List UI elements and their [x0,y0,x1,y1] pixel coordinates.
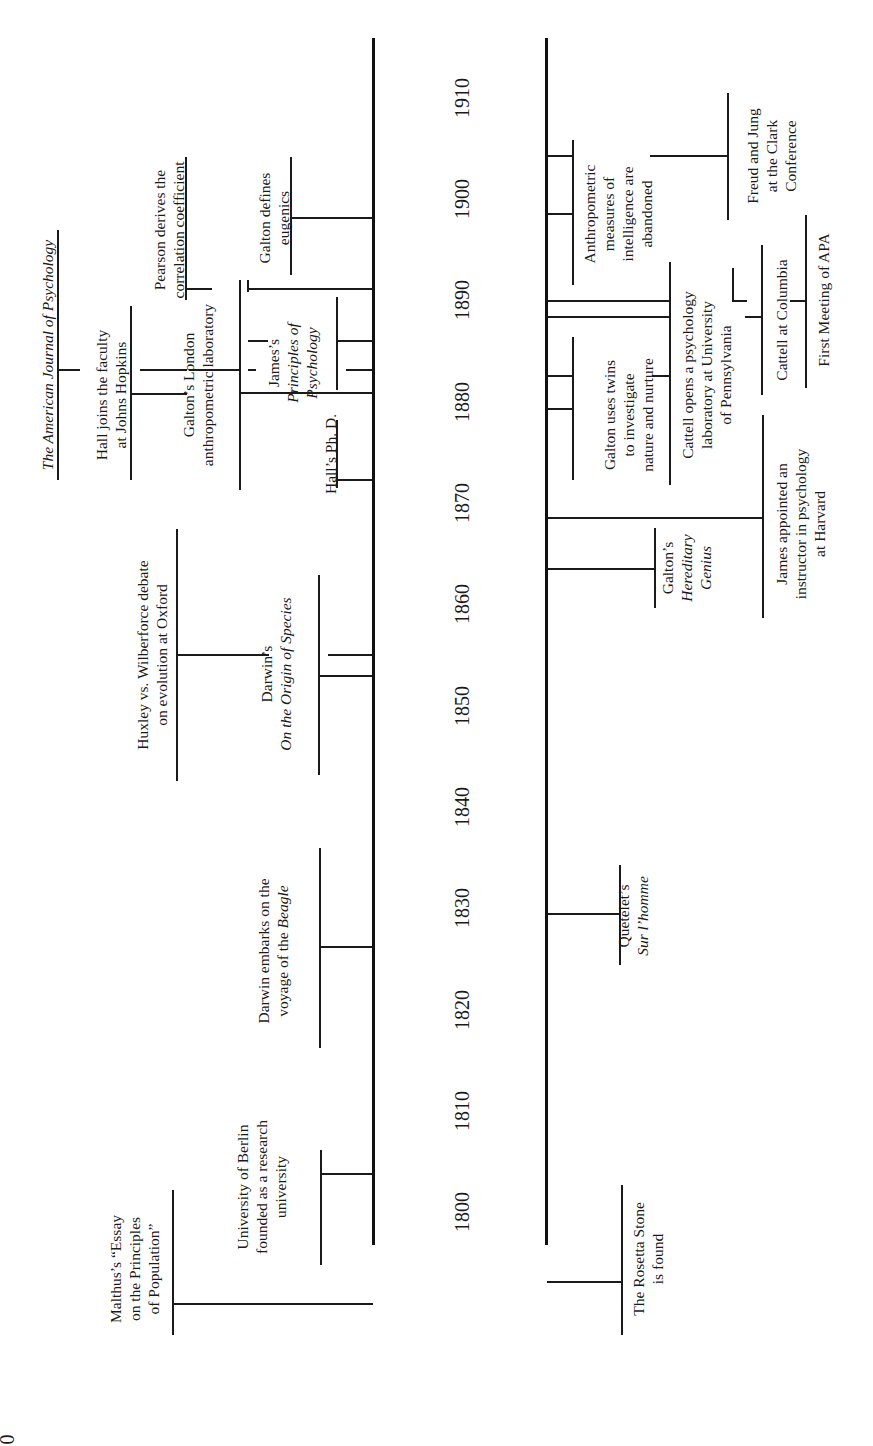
page-number: 0 [0,1435,19,1445]
bracket-line [247,280,249,292]
connector-line [547,375,573,377]
event-eugenics: Galton defines eugenics [255,163,299,273]
connector-line [337,340,373,342]
year-label: 1860 [450,574,474,634]
event-malthus: Malthus’s “Essay on the Principles of Po… [106,1194,170,1344]
event-hall-phd: Hall’s Ph. D. [321,409,341,499]
event-rosetta-stone: The Rosetta Stone is found [629,1184,673,1334]
event-hall-hopkins: Hall joins the faculty at Johns Hopkins [92,310,136,480]
connector-line [320,946,373,948]
bracket-line [761,245,763,395]
bracket-line [336,297,338,390]
event-james-harvard: James appointed an instructor in psychol… [772,429,832,619]
event-pearson: Pearson derives the correlation coeffici… [150,145,194,315]
bracket-line [239,280,241,490]
connector-line [745,316,762,318]
connector-line [319,675,373,677]
connector-line [547,1281,622,1283]
year-label: 1880 [450,372,474,432]
bracket-line [172,1190,174,1335]
event-cattell-penn: Cattell opens a psychology laboratory at… [678,275,738,475]
connector-line [547,300,670,302]
bracket-line [669,262,671,485]
bracket-line [621,1185,623,1335]
connector-line [733,300,747,302]
connector-line [547,568,655,570]
connector-line [248,369,256,371]
year-label: 1870 [450,473,474,533]
event-huxley: Huxley vs. Wilberforce debate on evoluti… [133,530,177,780]
connector-line [177,654,269,656]
bracket-line [320,1150,322,1265]
year-label: 1890 [450,270,474,330]
bracket-line [319,848,321,1048]
event-apa-first-meeting: First Meeting of APA [814,220,834,380]
connector-line [248,288,373,290]
connector-line [650,155,728,157]
year-label: 1820 [450,980,474,1040]
event-beagle: Darwin embarks on the voyage of the Beag… [254,851,298,1051]
connector-line [652,375,670,377]
event-quetelet: Quetelet’s Sur l’homme [614,866,658,966]
event-anthropometric-abandoned: Anthropometric measures of intelligence … [580,144,660,284]
year-label: 1800 [450,1182,474,1242]
year-label: 1810 [450,1081,474,1141]
bracket-line [654,528,656,608]
connector-line [337,479,373,481]
event-hereditary-genius: Galton’s Hereditary Genius [658,528,718,608]
connector-line [790,300,806,302]
year-label: 1910 [450,68,474,128]
connector-line [547,155,573,157]
bracket-line [732,268,734,302]
connector-line [547,213,573,215]
year-label: 1840 [450,777,474,837]
event-berlin: University of Berlin founded as a resear… [233,1102,297,1272]
event-galton-twins: Galton uses twins to investigate nature … [600,340,660,490]
upper-timeline-axis [372,38,375,1245]
event-cattell-columbia: Cattell at Columbia [772,245,792,395]
event-principles-of-psychology: James’s Principles of Psychology [264,315,324,411]
connector-line [321,1173,373,1175]
connector-line [346,369,373,371]
event-american-journal-of-psychology: The American Journal of Psychology [38,225,58,485]
bracket-line [727,93,729,220]
connector-line [547,408,573,410]
connector-line [291,217,373,219]
connector-line [328,654,373,656]
connector-line [547,517,763,519]
year-label: 1900 [450,169,474,229]
connector-line [58,369,80,371]
connector-line [547,913,620,915]
connector-line [173,1303,373,1305]
year-label: 1850 [450,676,474,736]
event-freud-jung-clark: Freud and Jung at the Clark Conference [743,93,803,219]
year-label: 1830 [450,878,474,938]
event-origin-of-species: Darwin’s On the Origin of Species [257,574,301,774]
bracket-line [805,215,807,388]
connector-line [547,316,670,318]
bracket-line [762,415,764,618]
lower-timeline-axis [545,38,548,1245]
